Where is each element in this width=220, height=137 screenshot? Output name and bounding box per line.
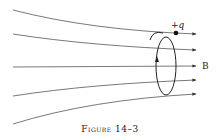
orbit-back-arc [150,32,163,40]
charge-label: +q [171,20,184,30]
field-line-3 [13,66,196,67]
orbit-direction-arrow-icon [155,56,159,62]
charge-particle-icon [174,31,179,36]
field-line-5 [13,94,196,124]
field-line-2 [13,34,196,50]
figure-caption: Figure 14–3 [0,124,220,134]
field-label: B [202,61,209,71]
field-line-1 [13,10,196,34]
magnetic-field-figure [0,0,220,137]
